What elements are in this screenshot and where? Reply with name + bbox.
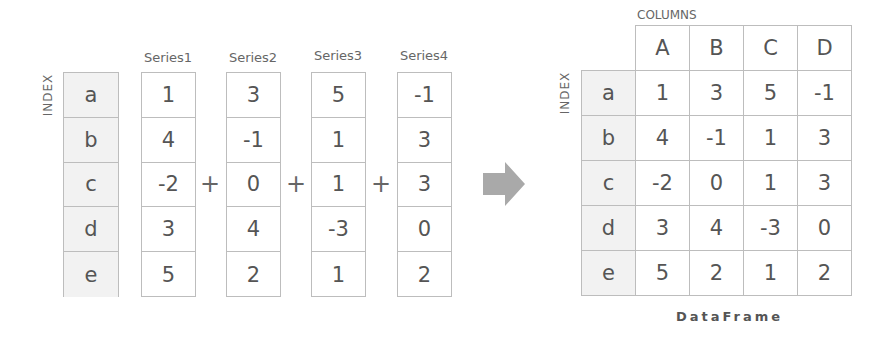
data-cell: 1 bbox=[636, 71, 690, 116]
series2-column: 3 -1 0 4 2 bbox=[226, 72, 281, 297]
series-cell: 1 bbox=[312, 252, 365, 297]
index-cell: d bbox=[64, 207, 118, 252]
data-cell: -1 bbox=[798, 71, 852, 116]
series-cell: 2 bbox=[227, 252, 280, 297]
series-cell: 3 bbox=[227, 73, 280, 118]
data-cell: 3 bbox=[636, 206, 690, 251]
index-cell: a bbox=[64, 73, 118, 118]
series-cell: 1 bbox=[312, 163, 365, 208]
series-cell: 0 bbox=[398, 207, 451, 252]
header-row: A B C D bbox=[582, 26, 852, 71]
table-row: b 4 -1 1 3 bbox=[582, 116, 852, 161]
series2-label: Series2 bbox=[218, 50, 288, 65]
data-cell: -2 bbox=[636, 161, 690, 206]
data-cell: -3 bbox=[744, 206, 798, 251]
index-cell: e bbox=[582, 251, 636, 296]
data-cell: 1 bbox=[744, 251, 798, 296]
series3-column: 5 1 1 -3 1 bbox=[311, 72, 366, 297]
data-cell: 4 bbox=[636, 116, 690, 161]
data-cell: 4 bbox=[690, 206, 744, 251]
series-cell: 3 bbox=[142, 207, 195, 252]
data-cell: 1 bbox=[744, 161, 798, 206]
series-cell: 3 bbox=[398, 163, 451, 208]
series-cell: -3 bbox=[312, 207, 365, 252]
series1-column: 1 4 -2 3 5 bbox=[141, 72, 196, 297]
table-row: d 3 4 -3 0 bbox=[582, 206, 852, 251]
data-cell: 3 bbox=[798, 161, 852, 206]
series-cell: -1 bbox=[398, 73, 451, 118]
data-cell: 2 bbox=[798, 251, 852, 296]
series-cell: 5 bbox=[312, 73, 365, 118]
series3-label: Series3 bbox=[303, 48, 373, 63]
table-row: e 5 2 1 2 bbox=[582, 251, 852, 296]
index-cell: a bbox=[582, 71, 636, 116]
data-cell: 0 bbox=[690, 161, 744, 206]
column-header: A bbox=[636, 26, 690, 71]
table-row: c -2 0 1 3 bbox=[582, 161, 852, 206]
series-cell: 4 bbox=[142, 118, 195, 163]
dataframe-title: DataFrame bbox=[676, 309, 783, 324]
plus-icon: + bbox=[286, 170, 306, 198]
right-arrow-icon bbox=[483, 160, 527, 208]
series4-label: Series4 bbox=[389, 48, 459, 63]
series-cell: 3 bbox=[398, 118, 451, 163]
index-cell: c bbox=[64, 163, 118, 208]
data-cell: 3 bbox=[798, 116, 852, 161]
data-cell: -1 bbox=[690, 116, 744, 161]
index-axis-label: INDEX bbox=[41, 65, 55, 125]
series-cell: -1 bbox=[227, 118, 280, 163]
index-cell: e bbox=[64, 252, 118, 297]
index-cell: c bbox=[582, 161, 636, 206]
dataframe-table: A B C D a 1 3 5 -1 b 4 -1 1 3 c -2 0 1 3… bbox=[581, 25, 852, 296]
data-cell: 5 bbox=[636, 251, 690, 296]
index-axis-label: INDEX bbox=[558, 63, 572, 123]
index-cell: b bbox=[64, 118, 118, 163]
plus-icon: + bbox=[371, 170, 391, 198]
column-header: D bbox=[798, 26, 852, 71]
column-header: C bbox=[744, 26, 798, 71]
series-cell: -2 bbox=[142, 163, 195, 208]
data-cell: 1 bbox=[744, 116, 798, 161]
series-cell: 5 bbox=[142, 252, 195, 297]
series-cell: 1 bbox=[142, 73, 195, 118]
data-cell: 3 bbox=[690, 71, 744, 116]
index-cell: b bbox=[582, 116, 636, 161]
series-cell: 4 bbox=[227, 207, 280, 252]
plus-icon: + bbox=[200, 170, 220, 198]
column-header: B bbox=[690, 26, 744, 71]
data-cell: 5 bbox=[744, 71, 798, 116]
series1-label: Series1 bbox=[133, 50, 203, 65]
series4-column: -1 3 3 0 2 bbox=[397, 72, 452, 297]
columns-axis-label: COLUMNS bbox=[637, 8, 697, 22]
table-row: a 1 3 5 -1 bbox=[582, 71, 852, 116]
series-cell: 2 bbox=[398, 252, 451, 297]
data-cell: 0 bbox=[798, 206, 852, 251]
data-cell: 2 bbox=[690, 251, 744, 296]
index-cell: d bbox=[582, 206, 636, 251]
series-cell: 0 bbox=[227, 163, 280, 208]
corner-blank bbox=[582, 26, 636, 71]
index-column: a b c d e bbox=[63, 72, 119, 297]
series-cell: 1 bbox=[312, 118, 365, 163]
